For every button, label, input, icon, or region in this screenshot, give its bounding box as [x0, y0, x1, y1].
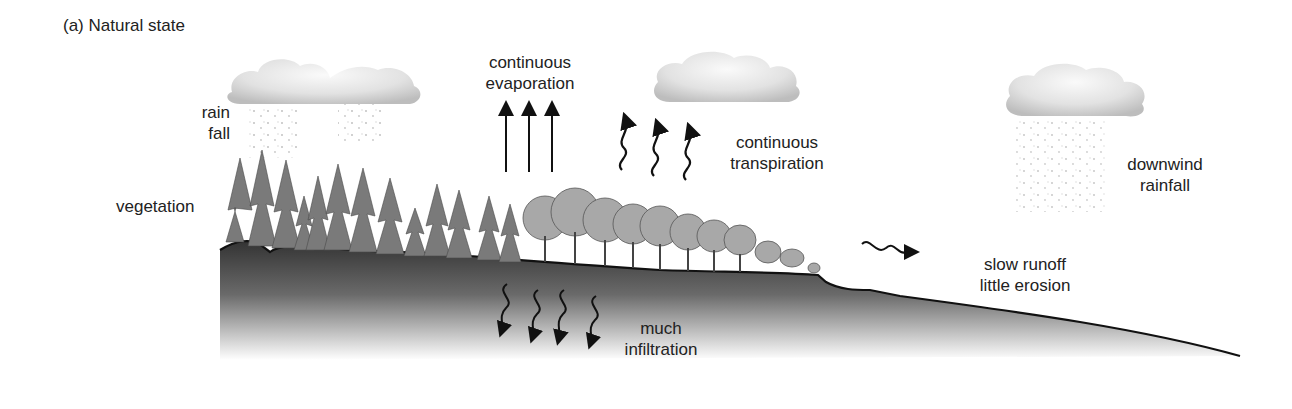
label-vegetation: vegetation [116, 196, 194, 217]
label-rain: rain [180, 102, 230, 123]
label-infiltration: much infiltration [606, 318, 716, 360]
runoff-arrow [862, 242, 912, 253]
label-downwind: downwind [1110, 154, 1220, 175]
label-fall: fall [180, 123, 230, 144]
cloud-center [654, 52, 800, 102]
rain-downwind [1015, 120, 1105, 212]
label-infiltration-word: infiltration [606, 339, 716, 360]
conifer-forest [226, 150, 521, 262]
cloud-right [1006, 64, 1144, 117]
label-downwind-rainfall: downwind rainfall [1110, 154, 1220, 196]
label-evaporation-line2: evaporation [460, 73, 600, 94]
cloud-left [227, 59, 420, 104]
label-evaporation: continuous evaporation [460, 52, 600, 94]
label-rainfall: rainfall [1110, 175, 1220, 196]
evaporation-arrows [506, 108, 552, 172]
label-little-erosion: little erosion [960, 275, 1090, 296]
transpiration-arrows [620, 120, 691, 180]
rain-left-a [248, 108, 300, 158]
label-transpiration-line2: transpiration [712, 153, 842, 174]
label-rain-fall: rain fall [180, 102, 230, 144]
deciduous-forest [523, 188, 820, 273]
label-runoff: slow runoff little erosion [960, 254, 1090, 296]
label-slow-runoff: slow runoff [960, 254, 1090, 275]
label-evaporation-line1: continuous [460, 52, 600, 73]
label-much: much [606, 318, 716, 339]
label-transpiration-line1: continuous [712, 132, 842, 153]
label-transpiration: continuous transpiration [712, 132, 842, 174]
rain-left-b [338, 104, 382, 144]
